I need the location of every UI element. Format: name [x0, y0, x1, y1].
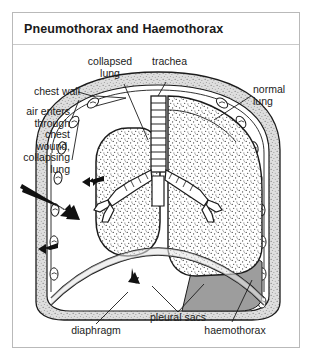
medical-diagram-figure: Pneumothorax and Haemothorax [0, 0, 315, 360]
label-air-enters-chest-wound: air enters through chest wound, collapsi… [8, 106, 70, 176]
label-trachea: trachea [152, 56, 212, 68]
anatomy-illustration [0, 0, 315, 360]
label-normal-lung: normal lung [253, 84, 307, 107]
label-haemothorax: haemothorax [196, 325, 274, 337]
label-pleural-sacs: pleural sacs [140, 312, 216, 324]
label-collapsed-lung: collapsed lung [78, 56, 142, 79]
label-chest-wall: chest wall [18, 86, 80, 98]
label-diaphragm: diaphragm [58, 325, 134, 337]
trachea-tube [151, 96, 166, 172]
